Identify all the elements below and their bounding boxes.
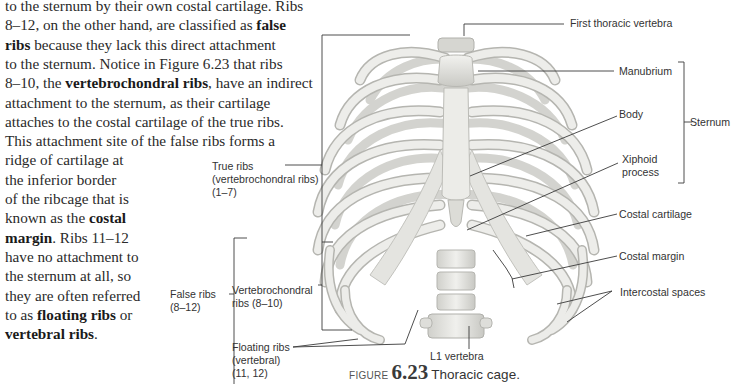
label-sternum: Sternum bbox=[690, 116, 730, 129]
xiphoid-shape bbox=[448, 200, 464, 227]
label-true-ribs-line2: (vertebrochondral ribs) bbox=[212, 173, 319, 186]
sternum-body-shape bbox=[442, 88, 470, 200]
label-false-ribs-line1: False ribs bbox=[170, 288, 216, 301]
label-true-ribs-line1: True ribs bbox=[212, 160, 253, 173]
caption-figure-word: FIGURE bbox=[349, 370, 389, 381]
label-true-ribs-line3: (1–7) bbox=[212, 186, 237, 199]
label-costal-margin: Costal margin bbox=[619, 250, 684, 263]
label-body: Body bbox=[619, 108, 643, 121]
label-vertebrochondral-line2: ribs (8–10) bbox=[232, 297, 283, 310]
label-manubrium: Manubrium bbox=[619, 65, 672, 78]
label-intercostal-spaces: Intercostal spaces bbox=[620, 286, 705, 299]
label-floating-ribs-line3: (11, 12) bbox=[232, 367, 268, 380]
caption-figure-number: 6.23 bbox=[392, 360, 429, 384]
thoracic-cage-illustration bbox=[0, 0, 734, 384]
label-costal-cartilage: Costal cartilage bbox=[619, 208, 692, 221]
manubrium-shape bbox=[438, 55, 474, 87]
caption-figure-title: Thoracic cage. bbox=[431, 367, 520, 382]
label-xiphoid-line2: process bbox=[622, 166, 659, 179]
l1-vertebra-shape bbox=[428, 314, 484, 338]
figure-caption: FIGURE6.23Thoracic cage. bbox=[349, 360, 520, 384]
label-false-ribs-line2: (8–12) bbox=[170, 301, 201, 314]
label-floating-ribs-line1: Floating ribs bbox=[232, 341, 290, 354]
label-floating-ribs-line2: (vertebral) bbox=[232, 354, 280, 367]
label-xiphoid-line1: Xiphoid bbox=[622, 153, 657, 166]
first-thoracic-vertebra-shape bbox=[438, 38, 474, 52]
vertebral-column bbox=[420, 250, 492, 338]
label-vertebrochondral-line1: Vertebrochondral bbox=[232, 284, 313, 297]
label-first-thoracic-vertebra: First thoracic vertebra bbox=[570, 17, 672, 30]
